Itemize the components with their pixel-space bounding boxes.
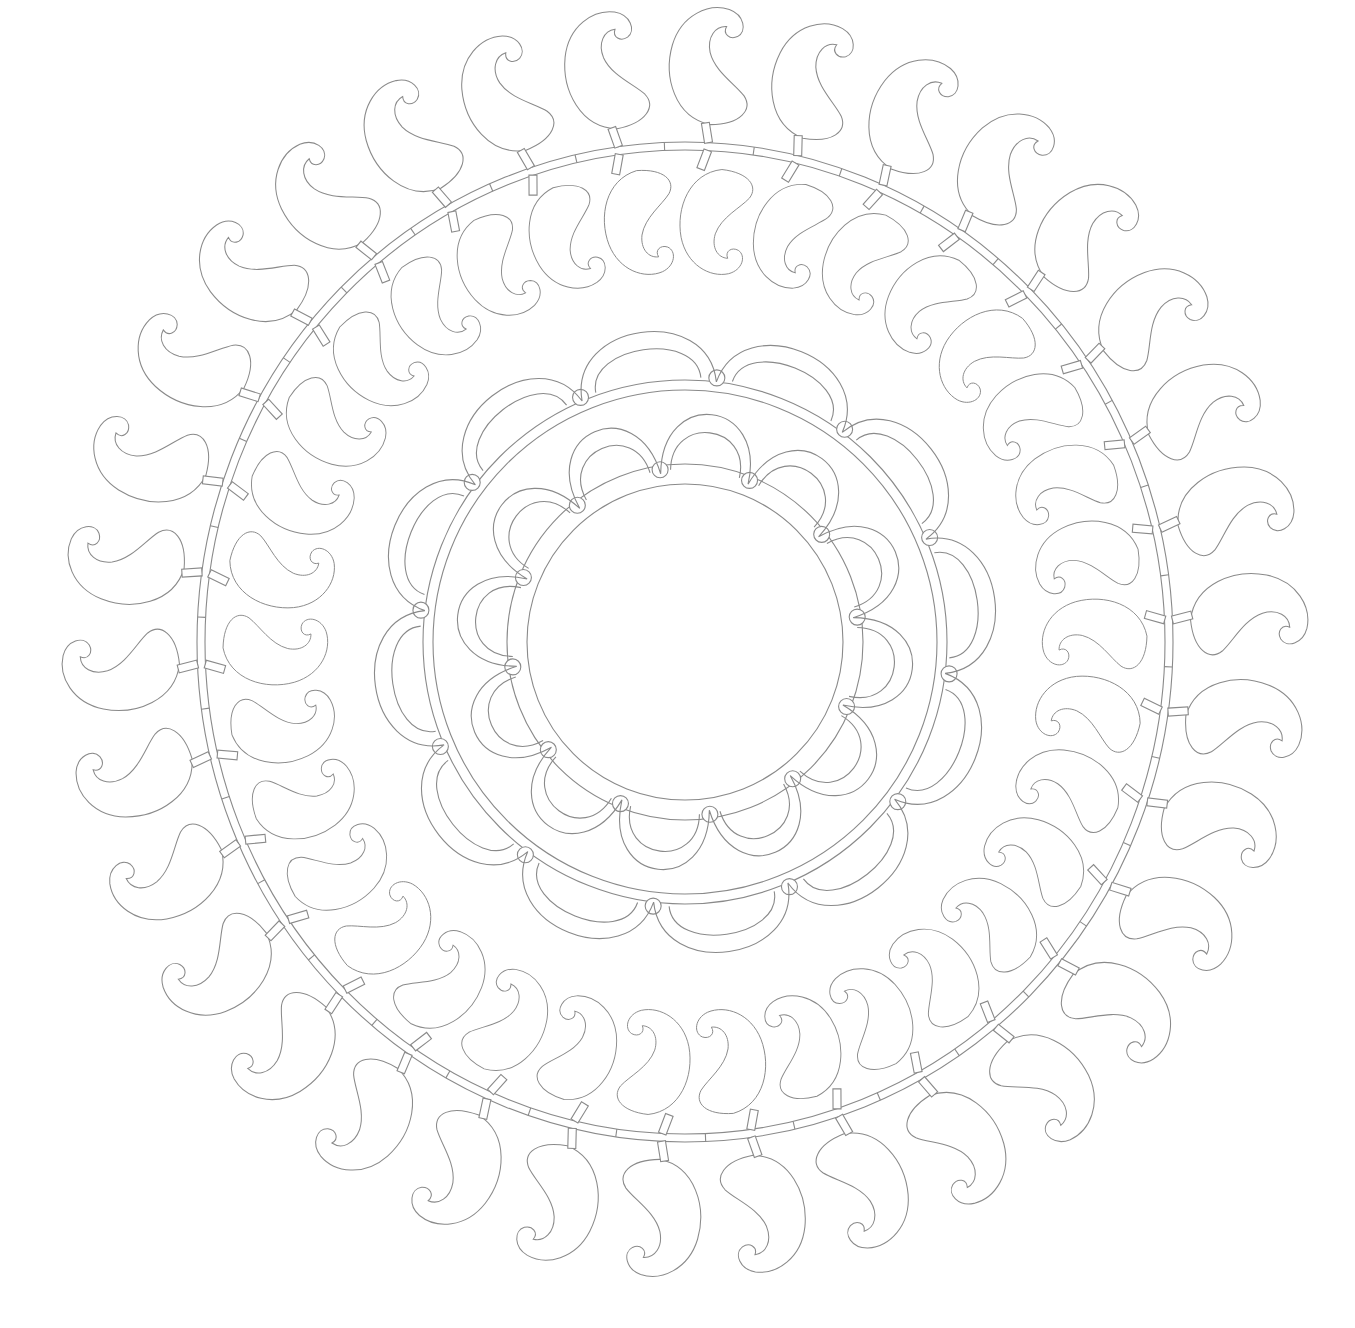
- paisley-outward: [760, 14, 865, 146]
- connector-tab: [781, 133, 806, 183]
- band-tick: [239, 438, 246, 441]
- paisley-outward: [448, 28, 560, 164]
- outer-scallop-junction: [517, 847, 533, 863]
- connector-tab: [1004, 268, 1048, 312]
- outer-scallop-junction: [890, 794, 906, 810]
- band-tick: [283, 358, 290, 363]
- band-tick: [308, 955, 314, 960]
- connector-tab: [189, 745, 239, 770]
- paisley-inward: [616, 1008, 692, 1116]
- paisley-outward: [1131, 347, 1270, 467]
- connector-tab: [263, 905, 311, 944]
- band-tick: [372, 1019, 377, 1025]
- paisley-inward: [1027, 511, 1145, 604]
- inner-scallop-junction: [849, 609, 865, 625]
- outer-scallop-junction: [413, 602, 429, 618]
- mandala-artwork: Paisley mandala coloring page: [0, 0, 1355, 1328]
- connector-tab: [430, 185, 466, 234]
- inner-scallop-junction: [540, 742, 556, 758]
- center-circle: [527, 484, 843, 800]
- paisley-inward: [222, 612, 330, 687]
- connector-tab: [180, 565, 230, 586]
- band-tick: [341, 287, 347, 293]
- connector-tab: [975, 999, 1017, 1045]
- band-tick: [1141, 485, 1149, 488]
- paisley-inward: [677, 168, 753, 276]
- paisley-outward: [81, 404, 217, 517]
- paisley-outward: [345, 69, 471, 210]
- connector-tab: [322, 972, 366, 1016]
- outer-scallop-junction: [837, 421, 853, 437]
- paisley-outward: [1168, 456, 1300, 560]
- outer-scallop-junction: [464, 474, 480, 490]
- inner-scallop-junction: [569, 497, 585, 513]
- outer-scallop-junction: [781, 879, 797, 895]
- paisley-outward: [62, 517, 189, 612]
- band-tick: [616, 1129, 617, 1137]
- inner-scallop-junction: [505, 659, 521, 675]
- connector-tab: [1084, 863, 1133, 899]
- paisley-inward: [225, 680, 343, 773]
- paisley-outward: [150, 904, 292, 1036]
- paisley-outward: [1189, 571, 1309, 655]
- paisley-outward: [851, 44, 971, 183]
- connector-tab: [937, 207, 976, 255]
- paisley-inward: [598, 166, 683, 279]
- band-tick: [490, 184, 493, 191]
- paisley-inward: [688, 1004, 773, 1117]
- paisley-outward: [898, 1074, 1024, 1215]
- band-tick: [210, 526, 218, 528]
- band-tick: [1080, 922, 1087, 927]
- paisley-outward: [100, 817, 239, 937]
- band-tick: [1055, 324, 1061, 329]
- paisley-outward: [61, 628, 181, 712]
- outer-scallop-junction: [432, 738, 448, 754]
- connector-tab: [1120, 783, 1170, 812]
- inner-scallop-junction: [702, 806, 718, 822]
- inner-scallop-junction: [652, 462, 668, 478]
- paisley-outward: [399, 1101, 519, 1240]
- band-tick: [877, 1093, 880, 1100]
- outer-scallop-junction: [709, 370, 725, 386]
- paisley-inward: [224, 529, 338, 614]
- connector-tab: [1144, 609, 1193, 625]
- paisley-outward: [70, 724, 202, 828]
- paisley-outward: [810, 1120, 922, 1256]
- outer-scallop-junction: [922, 530, 938, 546]
- paisley-outward: [718, 1149, 812, 1276]
- paisley-inward: [1032, 670, 1146, 755]
- outer-scallop-junction: [573, 389, 589, 405]
- connector-tab: [353, 238, 395, 284]
- connector-tab: [236, 384, 285, 420]
- band-tick: [920, 206, 924, 213]
- band-tick: [793, 1121, 795, 1129]
- band-tick: [1152, 756, 1160, 758]
- outer-scallop-junction: [941, 666, 957, 682]
- band-tick: [1105, 400, 1112, 404]
- band-tick: [839, 169, 842, 177]
- band-tick: [411, 228, 415, 235]
- connector-tab: [1131, 514, 1181, 539]
- band-tick: [753, 147, 754, 155]
- outer-scallop-junction: [645, 898, 661, 914]
- band-tick: [528, 1108, 531, 1116]
- paisley-outward: [618, 1158, 703, 1279]
- paisley-outward: [1109, 858, 1250, 985]
- band-tick: [955, 1049, 959, 1056]
- band-tick: [575, 155, 577, 163]
- connector-tab: [200, 472, 250, 501]
- mandala-svg: [0, 0, 1355, 1328]
- band-tick: [446, 1071, 450, 1078]
- paisley-outward: [120, 300, 261, 427]
- band-tick: [258, 880, 265, 884]
- connector-tab: [697, 122, 714, 171]
- connector-tab: [1140, 698, 1190, 719]
- inner-scallop-junction: [814, 526, 830, 542]
- paisley-outward: [1079, 249, 1221, 381]
- paisley-outward: [558, 8, 652, 135]
- connector-tab: [657, 1113, 674, 1162]
- paisley-outward: [505, 1138, 610, 1270]
- connector-tab: [177, 659, 226, 675]
- band-tick: [1161, 575, 1169, 576]
- connector-tab: [1059, 340, 1107, 379]
